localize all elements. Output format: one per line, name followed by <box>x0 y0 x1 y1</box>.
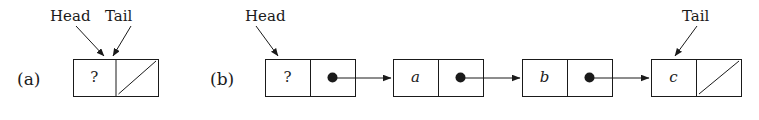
a-tail-arrow <box>113 26 131 56</box>
b-tail-arrow <box>675 26 697 56</box>
b-tail-label: Tail <box>682 9 709 24</box>
b-head-arrow <box>256 26 278 56</box>
b-head-label: Head <box>245 9 286 24</box>
a-sentinel-node-null-slash <box>119 61 157 94</box>
a-head-arrow <box>76 26 104 56</box>
a-head-label: Head <box>50 9 91 24</box>
panel-label-a: (a) <box>17 71 40 88</box>
panel-label-b: (b) <box>210 71 234 88</box>
b-node-a-data-cell: a <box>393 70 438 85</box>
b-node-c-null-slash <box>699 61 739 94</box>
a-sentinel-node-data-cell: ? <box>73 70 116 85</box>
a-tail-label: Tail <box>105 9 132 24</box>
b-sentinel-node-data-cell: ? <box>265 70 310 85</box>
b-node-b-data-cell: b <box>522 70 567 85</box>
b-node-c-data-cell: c <box>651 70 696 85</box>
linked-list-diagram: (a)HeadTail?(b)HeadTail?abc <box>0 0 759 120</box>
